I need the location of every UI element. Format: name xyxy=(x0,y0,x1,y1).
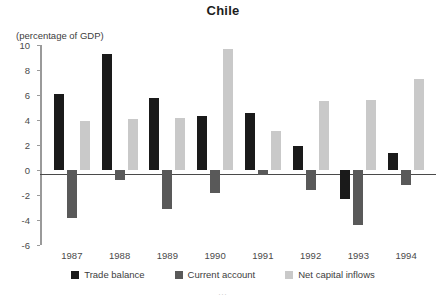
y-tick-label: -4 xyxy=(0,215,30,226)
bar-1991-current-account xyxy=(258,170,268,175)
x-tick-label: 1994 xyxy=(382,250,430,261)
bar-1987-trade-balance xyxy=(54,94,64,170)
x-tick-label: 1993 xyxy=(335,250,383,261)
y-tick-mark xyxy=(37,95,40,96)
chart-figure: Chile (percentage of GDP) 1086420-2-4-6 … xyxy=(0,0,446,300)
legend-label: Current account xyxy=(188,269,256,280)
bar-1992-current-account xyxy=(306,170,316,190)
legend-item-net-capital-inflows[interactable]: Net capital inflows xyxy=(285,269,375,280)
y-tick-label: 2 xyxy=(0,140,30,151)
bar-1993-net-capital-inflows xyxy=(366,100,376,170)
bar-group: 1990 xyxy=(191,45,239,245)
x-tick-label: 1987 xyxy=(48,250,96,261)
x-tick-label: 1990 xyxy=(191,250,239,261)
bar-1993-current-account xyxy=(353,170,363,225)
bar-1991-trade-balance xyxy=(245,113,255,171)
y-tick-label: 10 xyxy=(0,40,30,51)
y-tick-label: 6 xyxy=(0,90,30,101)
y-tick-mark xyxy=(37,195,40,196)
y-tick-mark xyxy=(37,170,40,171)
plot-area: 1086420-2-4-6 19871988198919901991199219… xyxy=(40,45,436,245)
y-tick-mark xyxy=(37,45,40,46)
bar-1992-net-capital-inflows xyxy=(319,101,329,170)
bar-1988-net-capital-inflows xyxy=(128,119,138,170)
y-tick-label: -2 xyxy=(0,190,30,201)
bar-1994-net-capital-inflows xyxy=(414,79,424,170)
legend-item-trade-balance[interactable]: Trade balance xyxy=(71,269,144,280)
bar-1990-trade-balance xyxy=(197,116,207,170)
bar-group: 1987 xyxy=(48,45,96,245)
bar-group: 1991 xyxy=(239,45,287,245)
x-tick-label: 1988 xyxy=(96,250,144,261)
y-tick-label: 0 xyxy=(0,165,30,176)
bar-1990-net-capital-inflows xyxy=(223,49,233,170)
y-tick-label: 4 xyxy=(0,115,30,126)
bar-group: 1993 xyxy=(335,45,383,245)
y-axis-line xyxy=(40,45,42,245)
y-tick-mark xyxy=(37,120,40,121)
legend-label: Trade balance xyxy=(84,269,144,280)
legend-label: Net capital inflows xyxy=(298,269,375,280)
bar-1994-current-account xyxy=(401,170,411,185)
bar-1992-trade-balance xyxy=(293,146,303,170)
y-tick-mark xyxy=(37,145,40,146)
bar-1990-current-account xyxy=(210,170,220,193)
bar-1987-current-account xyxy=(67,170,77,218)
bar-1994-trade-balance xyxy=(388,153,398,171)
legend-swatch-icon xyxy=(71,271,79,279)
bar-1991-net-capital-inflows xyxy=(271,131,281,170)
y-tick-mark xyxy=(37,220,40,221)
legend-swatch-icon xyxy=(285,271,293,279)
y-tick-label: 8 xyxy=(0,65,30,76)
x-tick-label: 1992 xyxy=(287,250,335,261)
bar-1989-trade-balance xyxy=(149,98,159,171)
legend-item-current-account[interactable]: Current account xyxy=(175,269,256,280)
footer-note: ... xyxy=(0,289,446,296)
bar-group: 1989 xyxy=(144,45,192,245)
chart-title: Chile xyxy=(0,3,446,18)
bar-1989-net-capital-inflows xyxy=(175,118,185,171)
y-tick-label: -6 xyxy=(0,240,30,251)
bar-1989-current-account xyxy=(162,170,172,209)
x-tick-label: 1991 xyxy=(239,250,287,261)
bar-group: 1992 xyxy=(287,45,335,245)
y-tick-mark xyxy=(37,245,40,246)
x-tick-label: 1989 xyxy=(144,250,192,261)
y-tick-mark xyxy=(37,70,40,71)
bar-1993-trade-balance xyxy=(340,170,350,199)
bar-1988-trade-balance xyxy=(102,54,112,170)
chart-legend: Trade balanceCurrent accountNet capital … xyxy=(0,269,446,280)
bar-group: 1994 xyxy=(382,45,430,245)
legend-swatch-icon xyxy=(175,271,183,279)
bar-1988-current-account xyxy=(115,170,125,180)
bar-group: 1988 xyxy=(96,45,144,245)
bar-1987-net-capital-inflows xyxy=(80,121,90,170)
